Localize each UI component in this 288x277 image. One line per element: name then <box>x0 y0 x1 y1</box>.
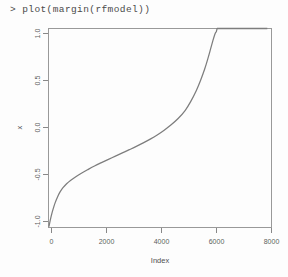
x-tick-label-6000: 6000 <box>209 238 225 245</box>
plot-panel-background <box>48 28 272 228</box>
y-tick-label-1.0: 1.0 <box>34 29 41 39</box>
x-tick-label-8000: 8000 <box>264 238 280 245</box>
x-axis-title: Index <box>151 256 170 265</box>
y-tick-label-0.5: 0.5 <box>34 76 41 86</box>
y-axis-ticks <box>43 34 48 222</box>
y-axis-tick-labels: 1.0 0.5 0.0 -0.5 -1.0 <box>34 29 41 228</box>
y-axis-title: x <box>15 125 24 129</box>
x-tick-label-2000: 2000 <box>99 238 115 245</box>
console-command-line: > plot(margin(rfmodel)) <box>10 4 150 16</box>
plot-svg: 1.0 0.5 0.0 -0.5 -1.0 x 0 2000 4000 6000 <box>0 18 288 277</box>
x-tick-label-4000: 4000 <box>154 238 170 245</box>
x-axis-tick-labels: 0 2000 4000 6000 8000 <box>50 238 280 245</box>
x-tick-label-0: 0 <box>50 238 54 245</box>
y-tick-label-0.0: 0.0 <box>34 123 41 133</box>
x-axis-ticks <box>52 228 272 233</box>
screenshot-root: > plot(margin(rfmodel)) 1.0 0.5 0.0 -0.5… <box>0 0 288 277</box>
margin-plot-figure: 1.0 0.5 0.0 -0.5 -1.0 x 0 2000 4000 6000 <box>0 18 288 277</box>
y-tick-label--0.5: -0.5 <box>34 168 41 180</box>
y-tick-label--1.0: -1.0 <box>34 215 41 227</box>
